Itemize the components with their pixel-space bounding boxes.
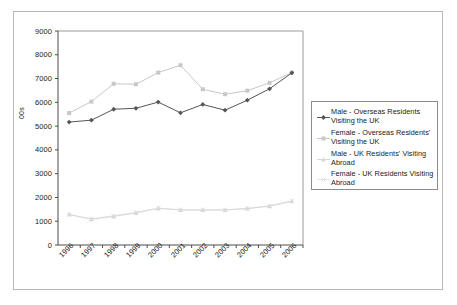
data-point-marker (156, 71, 160, 75)
legend-item[interactable]: Female - UK Residents Visiting Abroad (316, 169, 436, 187)
data-point-marker (223, 92, 227, 96)
data-point-marker (89, 118, 94, 123)
data-point-marker (111, 107, 116, 112)
chart-legend: Male - Overseas Residents Visiting the U… (311, 101, 438, 190)
y-axis-tick-label: 4000 (18, 145, 52, 154)
data-point-marker (67, 111, 71, 115)
data-point-marker (268, 81, 272, 85)
legend-label: Male - Overseas Residents Visiting the U… (331, 107, 436, 125)
data-point-marker (245, 89, 249, 93)
data-series-layer (67, 63, 295, 221)
legend-marker-icon (316, 108, 331, 117)
data-point-marker (223, 108, 228, 113)
series-line (67, 199, 295, 222)
chart-figure: 00s 900080007000600050004000300020001000… (0, 0, 457, 305)
series-line (67, 63, 294, 115)
legend-label: Female - Overseas Residents' Visiting th… (331, 128, 436, 146)
y-axis-tick-label: 5000 (18, 122, 52, 131)
y-axis-tick-label: 3000 (18, 169, 52, 178)
data-point-marker (201, 87, 205, 91)
y-axis-tick-label: 6000 (18, 98, 52, 107)
data-point-marker (156, 100, 161, 105)
legend-marker-icon (316, 129, 331, 138)
data-point-marker (178, 110, 183, 115)
legend-label: Male - UK Residents' Visiting Abroad (331, 149, 436, 167)
data-point-marker (89, 100, 93, 104)
y-axis-tick-label: 1000 (18, 217, 52, 226)
data-point-marker (112, 82, 116, 86)
y-axis-tick-label: 9000 (18, 27, 52, 36)
legend-item[interactable]: Male - UK Residents' Visiting Abroad (316, 149, 436, 167)
legend-item[interactable]: Female - Overseas Residents' Visiting th… (316, 128, 436, 146)
data-point-marker (245, 98, 250, 103)
legend-label: Female - UK Residents Visiting Abroad (331, 169, 436, 187)
y-axis-tick-label: 8000 (18, 50, 52, 59)
legend-item[interactable]: Male - Overseas Residents Visiting the U… (316, 107, 436, 125)
data-point-marker (200, 102, 205, 107)
data-point-marker (321, 115, 326, 120)
data-point-marker (322, 137, 326, 141)
data-point-marker (179, 63, 183, 67)
legend-marker-icon (316, 170, 331, 179)
y-axis-tick-label: 2000 (18, 193, 52, 202)
series-line (67, 70, 295, 124)
data-point-marker (134, 106, 139, 111)
data-point-marker (67, 120, 72, 125)
data-point-marker (134, 82, 138, 86)
plot-axes-frame (58, 31, 303, 245)
y-axis-tick-label: 0 (18, 241, 52, 250)
legend-marker-icon (316, 150, 331, 159)
y-axis-tick-label: 7000 (18, 74, 52, 83)
